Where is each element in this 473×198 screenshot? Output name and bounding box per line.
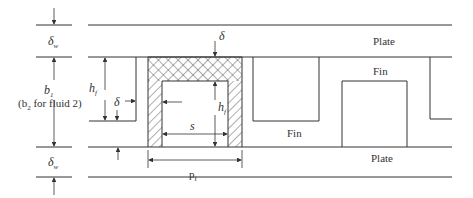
fin-cross-section bbox=[148, 57, 242, 147]
fin-right-1 bbox=[253, 57, 319, 121]
fin-upper-label: Fin bbox=[373, 65, 388, 77]
delta-top-label: δ bbox=[219, 29, 225, 43]
delta-left-label: δ bbox=[114, 95, 120, 109]
delta-w-top-label: δw bbox=[48, 34, 59, 50]
hf-left-label: hf bbox=[89, 81, 98, 97]
fin-diagram: Plate Plate Fin Fin δw δw b1 (b2 for flu… bbox=[0, 0, 473, 198]
delta-w-bottom-label: δw bbox=[48, 155, 59, 171]
s-label: s bbox=[190, 119, 195, 133]
plate-bottom-label: Plate bbox=[371, 152, 393, 164]
fin-right-2 bbox=[342, 81, 407, 147]
hf-center-label: hf bbox=[218, 100, 227, 116]
pf-label: pf bbox=[189, 168, 198, 183]
plate-top-label: Plate bbox=[373, 35, 395, 47]
fin-lower-label: Fin bbox=[287, 127, 302, 139]
fin-right-3 bbox=[430, 57, 452, 119]
b2-note-label: (b2 for fluid 2) bbox=[18, 97, 82, 112]
